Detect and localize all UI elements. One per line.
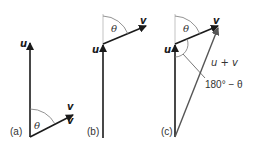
panel-a: u v v θ (a) [10,38,74,137]
label-u-c: u [164,44,171,55]
label-supplementary-c: 180° − θ [205,79,243,90]
label-v-top-a: v [67,101,74,112]
label-u-a: u [20,38,27,49]
label-sum-c: u + v [211,57,239,68]
panel-label-a: (a) [10,126,22,137]
panel-b: u v θ (b) [87,14,147,138]
vector-v-c [175,26,218,44]
supplementary-leader-c [183,54,205,78]
label-v-c: v [213,15,220,26]
panel-c: u v θ u + v 180° − θ (c) [161,14,243,137]
vector-addition-diagram: u v v θ (a) u v θ (b) u v θ u + v 180° −… [0,0,257,149]
panel-label-b: (b) [87,126,99,137]
theta-label-a: θ [34,120,40,131]
panel-label-c: (c) [161,126,173,137]
vector-v-b [103,26,146,44]
label-u-b: u [92,44,99,55]
label-v-b: v [140,15,147,26]
label-v-bottom-a: v [67,115,74,126]
theta-label-b: θ [111,23,117,34]
theta-label-c: θ [183,23,189,34]
